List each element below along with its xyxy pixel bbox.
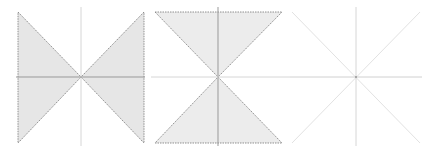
panel-horizontal-wedges: [0, 0, 145, 152]
axes-only-diagram: [290, 0, 436, 152]
horizontal-wedges-diagram: [0, 0, 145, 152]
vertical-wedges-diagram: [145, 0, 290, 152]
panel-axes-only: [290, 0, 436, 152]
origin-point: [355, 76, 357, 78]
panel-vertical-wedges: [145, 0, 290, 152]
